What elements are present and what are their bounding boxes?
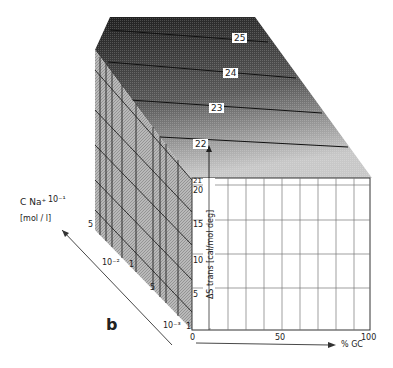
y-tick-1e-2: 10⁻² xyxy=(102,258,120,267)
contour-label-22: 22 xyxy=(193,139,208,149)
x-tick-50: 50 xyxy=(275,333,285,342)
y-axis-label: C Na⁺ xyxy=(20,197,46,207)
x-axis-label: % GC xyxy=(341,340,363,349)
gc-axis-arrow xyxy=(196,342,336,348)
y-tick-1e-3: 10⁻³ xyxy=(163,321,181,330)
y-tick-1b: 1 xyxy=(186,322,191,331)
z-tick-20: 20 xyxy=(193,186,203,195)
contour-label-23: 23 xyxy=(209,103,224,113)
y-axis-unit: [mol / l] xyxy=(20,214,51,223)
y-tick-1e-1: 10⁻¹ xyxy=(48,195,66,204)
x-tick-0: 0 xyxy=(190,333,195,342)
z-axis-unit: [cal/mol deg] xyxy=(206,210,215,263)
x-tick-100: 100 xyxy=(361,333,376,342)
y-tick-5b: 5 xyxy=(150,283,155,292)
contour-label-24: 24 xyxy=(223,68,238,78)
z-axis-title: ΔS trans xyxy=(206,265,215,299)
contour-label-25: 25 xyxy=(232,33,247,43)
z-axis-label: ΔS trans [cal/mol deg] xyxy=(206,205,215,305)
z-tick-21: 21 xyxy=(193,177,202,185)
y-tick-5a: 5 xyxy=(88,220,93,229)
z-tick-10: 10 xyxy=(193,256,203,265)
z-tick-15: 15 xyxy=(193,220,203,229)
z-tick-5: 5 xyxy=(193,290,198,299)
y-tick-1a: 1 xyxy=(129,260,134,269)
panel-label: b xyxy=(106,315,117,334)
